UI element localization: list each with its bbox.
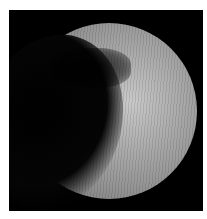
planet-disc — [21, 23, 197, 199]
terminator-shadow — [9, 16, 145, 211]
upper-shadow — [51, 48, 131, 88]
image-frame — [9, 10, 203, 211]
